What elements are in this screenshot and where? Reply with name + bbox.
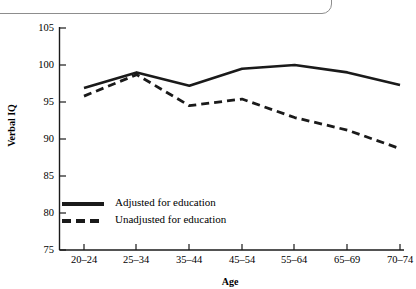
y-tick-label: 95 [28,96,54,107]
x-axis-title: Age [22,276,416,287]
x-tick-label: 55–64 [271,254,317,265]
legend-solid-line-icon [62,202,104,206]
series-line-unadjusted-for-education [84,75,400,149]
y-tick-label: 75 [28,244,54,255]
y-tick-label: 85 [28,170,54,181]
y-axis-ticks [60,28,67,250]
legend-label: Adjusted for education [115,196,216,208]
x-tick-label: 45–54 [219,254,265,265]
x-tick-label: 20–24 [61,254,107,265]
x-tick-label: 65–69 [324,254,370,265]
plot-area [0,0,416,289]
x-tick-label: 35–44 [166,254,212,265]
x-axis-ticks [84,244,400,250]
y-tick-label: 100 [28,59,54,70]
legend-dashed-line-icon [62,219,104,223]
series-line-adjusted-for-education [84,65,400,88]
verbal-iq-by-age-chart: Verbal IQ 105 10 [0,0,416,289]
y-tick-label: 105 [28,22,54,33]
legend-label: Unadjusted for education [115,213,226,225]
x-tick-label: 70–74 [377,254,416,265]
y-tick-label: 90 [28,133,54,144]
y-tick-label: 80 [28,207,54,218]
x-tick-label: 25–34 [113,254,159,265]
